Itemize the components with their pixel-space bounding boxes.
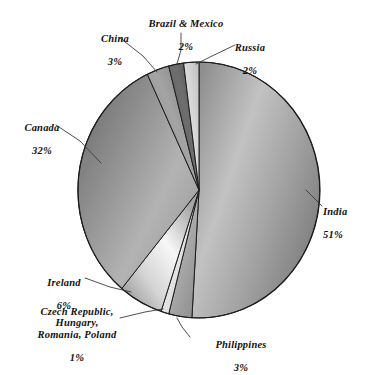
pie-label-canada: Canada 32% — [4, 110, 80, 168]
pie-label-russia: Russia 2% — [217, 30, 283, 88]
pie-slices — [78, 62, 320, 318]
pie-label-ireland-name: Ireland — [28, 277, 100, 289]
pie-label-china: China 3% — [84, 21, 146, 79]
pie-label-russia-percent: 2% — [217, 65, 283, 77]
pie-label-china-percent: 3% — [84, 56, 146, 68]
pie-label-czech-name: Czech Republic, Hungary, Romania, Poland — [8, 306, 146, 341]
pie-label-russia-name: Russia — [217, 42, 283, 54]
pie-label-china-name: China — [84, 33, 146, 45]
pie-label-canada-percent: 32% — [4, 145, 80, 157]
pie-label-canada-name: Canada — [4, 122, 80, 134]
pie-label-philippines-name: Philippines — [196, 339, 286, 351]
pie-label-india-percent: 51% — [323, 229, 375, 241]
pie-label-brazil-mexico-name: Brazil & Mexico — [132, 18, 240, 30]
pie-label-czech-hungary-romania-poland: Czech Republic, Hungary, Romania, Poland… — [8, 294, 146, 375]
pie-label-czech-percent: 1% — [8, 352, 146, 364]
pie-label-philippines: Philippines 3% — [196, 327, 286, 375]
leader-line-philippines — [177, 318, 190, 337]
pie-label-india: India 51% — [323, 194, 375, 252]
pie-slice-india[interactable] — [192, 62, 320, 318]
pie-label-philippines-percent: 3% — [196, 362, 286, 374]
pie-label-india-name: India — [323, 206, 375, 218]
